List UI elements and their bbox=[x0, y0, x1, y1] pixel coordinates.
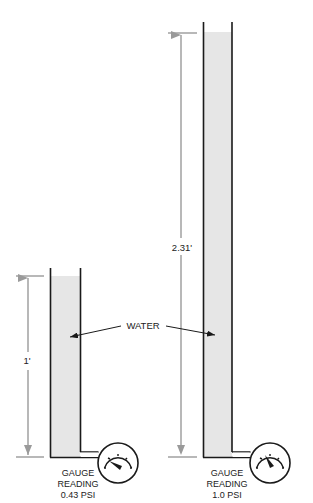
short-column: 1' GAUGE READING 0.43 PSI bbox=[16, 268, 138, 500]
gauge-label-short-line2: READING bbox=[57, 479, 98, 489]
height-dimension-short: 1' bbox=[16, 276, 44, 457]
water-callout: WATER bbox=[70, 320, 215, 337]
pressure-gauge-tall bbox=[250, 443, 290, 483]
gauge-label-short-line1: GAUGE bbox=[62, 468, 95, 478]
gauge-dial-icon bbox=[98, 443, 138, 483]
water-fill-tall bbox=[204, 32, 232, 457]
water-fill-short bbox=[51, 276, 80, 457]
height-dimension-tall: 2.31' bbox=[168, 33, 197, 457]
gauge-reading-tall: 1.0 PSI bbox=[212, 490, 242, 500]
height-label-tall: 2.31' bbox=[172, 242, 192, 253]
water-column-diagram: 1' GAUGE READING 0.43 PSI bbox=[0, 0, 313, 503]
height-label-short: 1' bbox=[23, 355, 30, 366]
pressure-gauge-short bbox=[98, 443, 138, 483]
gauge-label-tall-line2: READING bbox=[206, 479, 247, 489]
water-label: WATER bbox=[126, 320, 159, 331]
tall-column: 2.31' GAUGE READING 1.0 PSI bbox=[168, 22, 290, 500]
gauge-label-tall-line1: GAUGE bbox=[211, 468, 244, 478]
gauge-reading-short: 0.43 PSI bbox=[61, 490, 96, 500]
